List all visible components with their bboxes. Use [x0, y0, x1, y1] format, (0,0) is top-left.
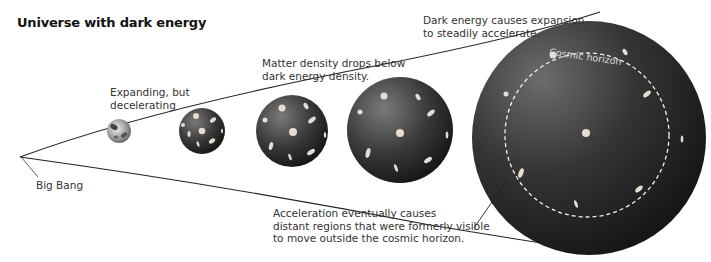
early-universe-sphere [107, 119, 131, 143]
horizon-note-line1: Acceleration eventually causes [273, 207, 490, 220]
accelerating-universe-sphere [347, 77, 453, 183]
matter-density-label-line1: Matter density drops below [262, 57, 405, 70]
decelerating-label-line2: decelerating [110, 99, 190, 112]
horizon-note-line3: to move outside the cosmic horizon. [273, 232, 490, 245]
matter-density-label-line2: dark energy density. [262, 70, 405, 83]
decelerating-label-line1: Expanding, but [110, 86, 190, 99]
big-bang-label: Big Bang [36, 179, 83, 192]
transition-universe-sphere [256, 95, 328, 167]
decelerating-label: Expanding, but decelerating [110, 86, 190, 111]
acceleration-label-line2: to steadily accelerate. [423, 27, 585, 40]
matter-density-label: Matter density drops below dark energy d… [262, 57, 405, 82]
horizon-note-line2: distant regions that were formerly visib… [273, 220, 490, 233]
big-bang-pointer [22, 158, 38, 177]
acceleration-label-line1: Dark energy causes expansion [423, 14, 585, 27]
acceleration-label: Dark energy causes expansion to steadily… [423, 14, 585, 39]
horizon-note-label: Acceleration eventually causes distant r… [273, 207, 490, 245]
decelerating-universe-sphere [179, 108, 225, 154]
